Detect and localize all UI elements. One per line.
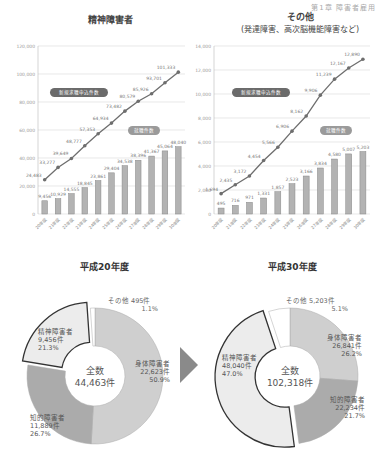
line-value-label: 64,934	[93, 116, 109, 121]
line-value-label: 5,566	[262, 140, 275, 145]
x-tick-label: 20年度	[34, 216, 49, 231]
x-tick-label: 25年度	[281, 216, 296, 231]
y-tick-label: 20,000	[19, 184, 35, 189]
x-tick-label: 22年度	[238, 216, 253, 231]
bar	[232, 205, 238, 214]
line-point	[110, 121, 114, 125]
y-tick-label: 100,000	[16, 72, 35, 77]
donut-h20: 全数44,463件身体障害者22,623件50.9%知的障害者11,889件26…	[0, 270, 185, 461]
legend-line-label: 新規求職申込件数	[59, 89, 99, 96]
bar	[95, 181, 101, 214]
legend-line-label: 新規求職申込件数	[241, 89, 281, 96]
x-tick-label: 23年度	[253, 216, 268, 231]
bar	[303, 176, 309, 214]
chart1-title: 精神障害者	[40, 13, 180, 26]
bar-value-label: 18,845	[77, 181, 93, 186]
slice-label: その他 5,203件	[286, 296, 335, 305]
donut-center-label: 全数	[86, 365, 104, 376]
line-point	[150, 92, 154, 96]
line-value-label: 101,333	[157, 65, 176, 70]
y-tick-label: 40,000	[19, 156, 35, 161]
chart2-title: その他 (発達障害、高次脳機能障害など)	[220, 10, 380, 34]
bar	[109, 173, 115, 214]
legend-bar-label: 就職件数	[134, 127, 154, 134]
bar	[69, 194, 75, 214]
chart1-title-text: 精神障害者	[88, 15, 133, 25]
slice-label: その他 495件	[108, 296, 150, 305]
line-point	[70, 157, 74, 161]
line-point	[333, 77, 337, 81]
slice-count: 11,889件	[30, 421, 60, 430]
line-point	[56, 166, 60, 170]
line-point	[290, 129, 294, 133]
slice-label: 身体障害者	[327, 333, 362, 342]
chart2-title-text: その他	[287, 12, 314, 22]
bar-value-label: 495	[217, 201, 226, 206]
bar-value-label: 34,538	[117, 159, 133, 164]
donut-h30: 全数102,318件身体障害者26,841件26.2%知的障害者22,234件2…	[190, 270, 382, 461]
slice-label: 精神障害者	[38, 327, 73, 336]
y-tick-label: 8,000	[198, 116, 211, 121]
bar	[55, 199, 61, 214]
line-value-label: 2,435	[219, 178, 232, 183]
y-tick-label: 60,000	[19, 128, 35, 133]
legend-bar-label: 就職件数	[326, 127, 346, 134]
chart-other-disability: 02,0004,0006,0008,00010,00012,00014,0004…	[190, 38, 382, 248]
line-point	[43, 178, 47, 182]
slice-pct: 50.9%	[149, 376, 170, 384]
slice-pct: 21.3%	[38, 344, 59, 352]
slice-count: 22,234件	[335, 403, 365, 412]
line-value-label: 6,906	[276, 124, 289, 129]
line-value-label: 12,890	[344, 52, 360, 57]
x-tick-label: 27年度	[127, 216, 142, 231]
slice-count: 26,841件	[332, 341, 362, 350]
bar-value-label: 4,580	[328, 152, 341, 157]
slice-label: 知的障害者	[330, 395, 365, 404]
bar	[176, 147, 182, 214]
bar-value-label: 29,404	[104, 166, 120, 171]
line-point	[319, 93, 323, 97]
bar-value-label: 1,331	[257, 191, 270, 196]
bar-value-label: 2,523	[286, 177, 299, 182]
bar-value-label: 1,857	[271, 185, 284, 190]
line-value-label: 3,172	[234, 169, 247, 174]
line-point	[248, 174, 252, 178]
line-point	[347, 66, 351, 70]
line-value-label: 33,277	[39, 160, 55, 165]
line-value-label: 85,926	[133, 87, 149, 92]
line-point	[96, 132, 100, 136]
slice-label: 知的障害者	[30, 413, 65, 422]
bar	[289, 184, 295, 214]
line-point	[233, 183, 237, 187]
x-tick-label: 26年度	[114, 216, 129, 231]
line-point	[219, 192, 223, 196]
bar	[346, 154, 352, 214]
line-point	[83, 144, 87, 148]
x-tick-label: 23年度	[74, 216, 89, 231]
y-tick-label: 80,000	[19, 100, 35, 105]
bar	[332, 159, 338, 214]
bar	[135, 160, 141, 214]
x-tick-label: 25年度	[100, 216, 115, 231]
line-value-label: 11,239	[316, 72, 332, 77]
line-value-label: 57,353	[79, 127, 95, 132]
x-tick-label: 30年度	[352, 216, 367, 231]
x-tick-label: 21年度	[224, 216, 239, 231]
donut-center-label: 全数	[281, 365, 299, 376]
x-tick-label: 22年度	[60, 216, 75, 231]
chart-mental-disability: 020,00040,00060,00080,000100,000120,0009…	[0, 38, 190, 248]
slice-pct: 5.1%	[331, 305, 348, 313]
slice-count: 22,623件	[140, 367, 170, 376]
bar-value-label: 3,166	[300, 169, 313, 174]
line-value-label: 24,483	[26, 173, 42, 178]
bar-value-label: 716	[231, 198, 240, 203]
line-point	[276, 145, 280, 149]
slice-pct: 21.7%	[344, 412, 365, 420]
bar-value-label: 41,367	[144, 149, 160, 154]
bar-value-label: 14,555	[64, 187, 80, 192]
y-tick-label: 0	[32, 212, 35, 217]
donut-slice	[90, 308, 95, 346]
bar	[317, 168, 323, 214]
slice-label: 精神障害者	[222, 353, 257, 362]
x-tick-label: 20年度	[210, 216, 225, 231]
